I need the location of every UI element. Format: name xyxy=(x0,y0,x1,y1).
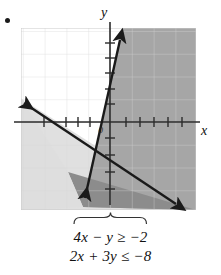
inequality-line-2: 2x + 3y ≤ −8 xyxy=(0,247,221,266)
x-axis-label: x xyxy=(200,123,208,138)
inequality-line-1: 4x − y ≥ −2 xyxy=(0,228,221,247)
caption-brace xyxy=(74,213,147,225)
inequality-caption: 4x − y ≥ −2 2x + 3y ≤ −8 xyxy=(0,228,221,266)
y-axis-label: y xyxy=(99,5,108,20)
inequality-graph-figure: 0 x y 4x − y ≥ −2 2x + 3y ≤ −8 xyxy=(0,0,221,275)
under-brace-icon xyxy=(74,213,147,225)
